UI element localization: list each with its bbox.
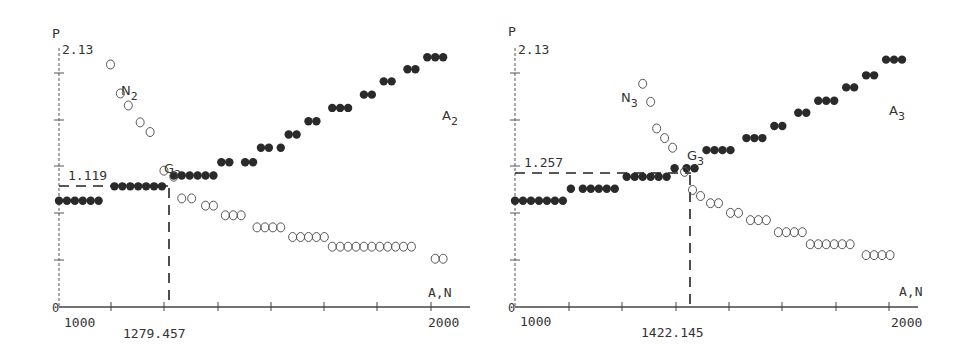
marker-filled (595, 185, 603, 193)
marker-filled (778, 122, 786, 130)
marker-open (726, 208, 734, 217)
marker-filled (387, 77, 395, 85)
marker-open (647, 97, 655, 106)
marker-open (368, 242, 376, 251)
marker-filled (770, 122, 778, 130)
marker-open (639, 79, 647, 88)
marker-open (439, 254, 447, 263)
marker-filled (110, 182, 118, 190)
marker-open (707, 199, 715, 208)
marker-open (188, 194, 196, 203)
marker-open (782, 228, 790, 237)
x-axis-label: A,N (899, 284, 922, 299)
marker-open (870, 251, 878, 260)
marker-filled (431, 53, 439, 61)
marker-open (407, 242, 415, 251)
marker-filled (794, 109, 802, 117)
marker-filled (662, 172, 670, 180)
marker-filled (551, 197, 559, 205)
x-max-label: 2000 (428, 315, 459, 330)
marker-filled (193, 171, 201, 179)
intersection-x-value: 1279.457 (123, 326, 186, 341)
marker-filled (702, 146, 710, 154)
marker-filled (185, 171, 193, 179)
marker-open (814, 240, 822, 249)
series-n3-label: N3 (621, 90, 638, 110)
marker-filled (292, 130, 300, 138)
marker-filled (710, 146, 718, 154)
marker-filled (587, 185, 595, 193)
marker-open (277, 223, 285, 232)
marker-open (734, 208, 742, 217)
marker-open (237, 211, 245, 220)
y-axis-label: P (508, 24, 516, 39)
marker-filled (802, 109, 810, 117)
marker-open (798, 228, 806, 237)
marker-filled (870, 71, 878, 79)
marker-filled (567, 185, 575, 193)
y-max-label: 2.13 (518, 42, 549, 57)
marker-open (754, 216, 762, 225)
marker-filled (241, 158, 249, 166)
marker-filled (277, 144, 285, 152)
marker-open (697, 191, 705, 200)
chart-panel-left: P 2.13 0 1000 2000 A,N 1.119 1279.457 N2… (0, 0, 490, 359)
marker-open (862, 251, 870, 260)
marker-open (360, 242, 368, 251)
marker-filled (312, 117, 320, 125)
marker-filled (328, 104, 336, 112)
marker-filled (94, 197, 102, 205)
marker-filled (134, 182, 142, 190)
marker-open (392, 242, 400, 251)
marker-filled (511, 197, 519, 205)
marker-filled (579, 185, 587, 193)
marker-filled (623, 172, 631, 180)
marker-filled (158, 182, 166, 190)
marker-filled (217, 158, 225, 166)
marker-open (209, 201, 217, 210)
marker-open (136, 118, 144, 127)
marker-open (886, 251, 894, 260)
marker-filled (118, 182, 126, 190)
marker-filled (55, 197, 63, 205)
marker-open (202, 201, 210, 210)
intersection-y-value: 1.257 (524, 155, 563, 170)
marker-open (653, 124, 661, 133)
marker-filled (304, 117, 312, 125)
marker-open (846, 240, 854, 249)
marker-open (297, 233, 305, 242)
x-max-label: 2000 (891, 315, 922, 330)
marker-filled (63, 197, 71, 205)
marker-filled (411, 65, 419, 73)
marker-open (336, 242, 344, 251)
marker-open (806, 240, 814, 249)
marker-filled (814, 96, 822, 104)
marker-filled (559, 197, 567, 205)
marker-open (762, 216, 770, 225)
marker-open (689, 185, 697, 194)
x-min-label: 1000 (64, 315, 95, 330)
y-axis (54, 48, 64, 307)
marker-open (221, 211, 229, 220)
series-a3-label: A3 (889, 103, 905, 123)
chart-right-svg: P 2.13 0 1000 2000 A,N 1.257 1422.145 N3… (456, 0, 979, 359)
marker-filled (423, 53, 431, 61)
series-a3-markers (511, 55, 906, 205)
marker-open (269, 223, 277, 232)
marker-filled (380, 77, 388, 85)
marker-open (746, 216, 754, 225)
marker-open (344, 242, 352, 251)
marker-filled (201, 171, 209, 179)
marker-open (328, 242, 336, 251)
marker-filled (519, 197, 527, 205)
marker-filled (344, 104, 352, 112)
marker-open (714, 199, 722, 208)
marker-open (320, 233, 328, 242)
marker-open (304, 233, 312, 242)
marker-filled (257, 144, 265, 152)
intersection-guides (515, 173, 691, 307)
marker-filled (758, 134, 766, 142)
marker-filled (822, 96, 830, 104)
marker-open (253, 223, 261, 232)
marker-open (229, 211, 237, 220)
